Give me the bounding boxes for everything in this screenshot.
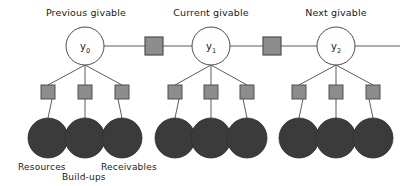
chain-link-square: [263, 37, 281, 55]
edge-node-to-square: [299, 65, 336, 85]
square-node: [115, 85, 129, 99]
leaf-node: [191, 118, 231, 158]
leaf-nodes-layer: [28, 118, 393, 158]
edge-square-to-leaf: [48, 99, 52, 118]
group-title-previous: Previous givable: [46, 7, 126, 18]
leaf-node: [227, 118, 267, 158]
group-title-next: Next givable: [305, 7, 367, 18]
square-node: [78, 85, 92, 99]
edge-square-to-leaf: [118, 99, 122, 118]
edge-node-to-square: [85, 65, 122, 85]
leaf-node: [65, 118, 105, 158]
square-node: [204, 85, 218, 99]
edge-node-to-square: [336, 65, 373, 85]
edge-square-to-leaf: [369, 99, 373, 118]
network-diagram: y0y1y2 Previous givableCurrent givableNe…: [0, 0, 414, 186]
chain-link-square: [145, 37, 163, 55]
leaf-node: [316, 118, 356, 158]
square-node: [240, 85, 254, 99]
square-node: [292, 85, 306, 99]
square-node: [41, 85, 55, 99]
leaf-node: [353, 118, 393, 158]
leaf-captions-layer: ResourcesBuild-upsReceivables: [18, 162, 157, 182]
leaf-caption-receivables: Receivables: [101, 162, 157, 172]
leaf-caption-build-ups: Build-ups: [62, 172, 106, 182]
square-node: [366, 85, 380, 99]
leaf-node: [155, 118, 195, 158]
diagram-canvas: y0y1y2 Previous givableCurrent givableNe…: [0, 0, 414, 186]
leaf-node: [28, 118, 68, 158]
leaf-node: [102, 118, 142, 158]
square-node: [329, 85, 343, 99]
group-titles-layer: Previous givableCurrent givableNext giva…: [46, 7, 367, 18]
edge-node-to-square: [211, 65, 247, 85]
leaf-node: [279, 118, 319, 158]
leaf-caption-resources: Resources: [18, 162, 66, 172]
edge-square-to-leaf: [243, 99, 247, 118]
edge-square-to-leaf: [175, 99, 179, 118]
edge-node-to-square: [48, 65, 85, 85]
square-node: [168, 85, 182, 99]
group-title-current: Current givable: [173, 7, 249, 18]
edge-node-to-square: [175, 65, 211, 85]
square-nodes-layer: [41, 85, 380, 99]
edge-square-to-leaf: [299, 99, 303, 118]
